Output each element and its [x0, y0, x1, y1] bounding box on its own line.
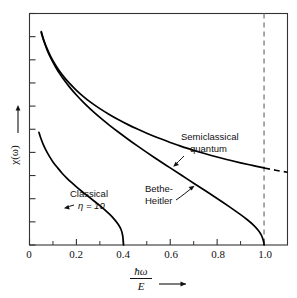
x-tick-label-0-6: 0.6	[164, 248, 178, 260]
x-axis-label-denominator: E	[137, 280, 145, 292]
y-axis-label-text: χ(ω)	[8, 145, 21, 166]
x-tick-label-0: 0	[26, 248, 32, 260]
annotation-classical-line1: Classical	[70, 188, 108, 199]
x-tick-label-0-8: 0.8	[211, 248, 225, 260]
annotation-classical-line2: η = 10	[78, 200, 105, 211]
chart-svg: 0 0.2 0.4 0.6 0.8 1.0 ħω E χ(ω) Semiclas…	[0, 0, 297, 298]
x-tick-label-1-0: 1.0	[258, 248, 272, 260]
figure-container: 0 0.2 0.4 0.6 0.8 1.0 ħω E χ(ω) Semiclas…	[0, 0, 297, 298]
x-tick-label-0-2: 0.2	[69, 248, 83, 260]
annotation-bethe-line1: Bethe-	[145, 183, 173, 194]
annotation-semiclassical-line2: quantum	[190, 143, 227, 154]
annotation-bethe-line2: Heitler	[145, 195, 172, 206]
annotation-semiclassical-line1: Semiclassical	[181, 131, 239, 142]
x-axis-label-numerator: ħω	[134, 265, 148, 277]
x-tick-label-0-4: 0.4	[116, 248, 130, 260]
